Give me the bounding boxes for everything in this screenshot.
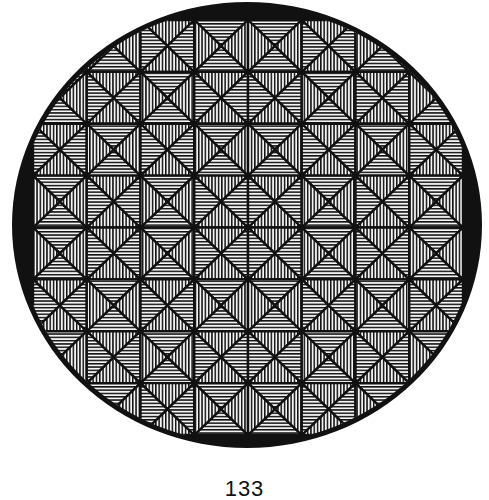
hatched-cell [356,331,410,383]
hatched-cell [409,176,463,228]
hatched-cell [87,72,141,124]
hatched-cell [33,124,87,176]
hatched-cell [409,383,463,435]
hatched-cell [141,176,195,228]
hatched-cell [194,383,248,435]
hatched-cell [87,331,141,383]
hatched-cell [141,279,195,331]
hatched-cell [194,124,248,176]
hatched-cell [356,72,410,124]
hatched-cell [141,72,195,124]
hatched-cell [194,228,248,280]
hatched-cell [248,279,302,331]
hatched-cell [302,72,356,124]
hatched-cell [302,331,356,383]
hatched-cell [194,331,248,383]
hatched-cell [356,228,410,280]
hatched-cell [33,176,87,228]
hatched-cell [248,124,302,176]
hatched-cell [87,176,141,228]
hatched-cell [302,176,356,228]
hatched-cell [302,279,356,331]
hatched-cell [409,20,463,72]
hatched-cell [141,228,195,280]
hatched-cell [248,20,302,72]
hatched-cell [248,72,302,124]
hatched-cell [356,279,410,331]
hatched-cell [356,124,410,176]
hatched-cell [141,331,195,383]
page-number: 133 [0,478,489,500]
hatched-cell [194,176,248,228]
hatched-cell [141,124,195,176]
hatched-cell [302,124,356,176]
hatched-cell [87,124,141,176]
hatched-cell [302,383,356,435]
hatched-cell [33,383,87,435]
hatched-cell [194,279,248,331]
hatched-cell [409,228,463,280]
hatched-cell [248,331,302,383]
hatched-cell [356,176,410,228]
hatched-cell [33,228,87,280]
hatched-cell [33,20,87,72]
hatched-cell [302,228,356,280]
hatched-cell [194,72,248,124]
hatched-cell [248,176,302,228]
hatched-cell [194,20,248,72]
hatched-cell [248,383,302,435]
hatched-cell [248,228,302,280]
hatched-cell [87,279,141,331]
hatched-cell [87,228,141,280]
